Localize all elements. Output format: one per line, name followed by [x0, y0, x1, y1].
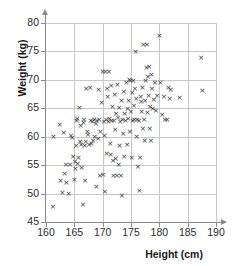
data-point	[157, 79, 164, 86]
data-point	[141, 116, 148, 123]
data-point	[115, 161, 122, 168]
y-tick-label: 55	[17, 158, 39, 170]
y-tick-label: 80	[17, 16, 39, 28]
x-tick-label: 180	[144, 226, 174, 238]
gridline-horizontal	[46, 51, 216, 52]
data-point	[100, 171, 107, 178]
y-axis-arrow-icon	[42, 9, 48, 15]
data-point	[75, 154, 82, 161]
data-point	[137, 154, 144, 161]
gridline-horizontal	[46, 23, 216, 24]
data-point	[167, 86, 174, 93]
data-point	[128, 154, 135, 161]
y-tick-label: 75	[17, 44, 39, 56]
y-tick-label: 45	[17, 215, 39, 227]
gridline-vertical	[188, 23, 189, 222]
data-point	[49, 203, 56, 210]
data-point	[156, 32, 163, 39]
data-point	[50, 133, 57, 140]
data-point	[136, 187, 143, 194]
data-point	[56, 121, 63, 128]
data-point	[124, 141, 131, 148]
y-tick	[41, 23, 46, 24]
scatter-chart: Weight (kg) Height (cm) 1601651701751801…	[0, 0, 234, 266]
y-tick	[41, 137, 46, 138]
y-tick	[41, 194, 46, 195]
data-point	[82, 177, 89, 184]
x-axis-arrow-icon	[221, 219, 227, 225]
data-point	[143, 41, 150, 48]
data-point	[146, 125, 153, 132]
data-point	[116, 142, 123, 149]
data-point	[69, 134, 76, 141]
x-tick-label: 175	[116, 226, 146, 238]
data-point	[198, 54, 205, 61]
data-point	[133, 133, 140, 140]
y-tick-label: 50	[17, 187, 39, 199]
data-point	[63, 179, 70, 186]
data-point	[105, 68, 112, 75]
data-point	[130, 77, 137, 84]
plot-area	[46, 23, 216, 222]
y-tick	[41, 51, 46, 52]
x-axis-title: Height (cm)	[118, 248, 230, 260]
data-point	[78, 164, 85, 171]
data-point	[118, 192, 125, 199]
y-tick-label: 70	[17, 73, 39, 85]
data-point	[164, 116, 171, 123]
data-point	[101, 188, 108, 195]
data-point	[121, 153, 128, 160]
data-point	[107, 140, 114, 147]
data-point	[65, 190, 72, 197]
x-tick-label: 185	[173, 226, 203, 238]
data-point	[93, 183, 100, 190]
y-tick-label: 65	[17, 101, 39, 113]
y-tick	[41, 165, 46, 166]
gridline-vertical	[216, 23, 217, 222]
data-point	[71, 176, 78, 183]
data-point	[166, 95, 173, 102]
data-point	[199, 87, 206, 94]
x-tick-label: 160	[31, 226, 61, 238]
y-tick-label: 60	[17, 130, 39, 142]
data-point	[132, 48, 139, 55]
data-point	[112, 126, 119, 133]
data-point	[101, 132, 108, 139]
data-point	[147, 137, 154, 144]
data-point	[176, 94, 183, 101]
data-point	[117, 172, 124, 179]
data-point	[131, 85, 138, 92]
y-tick	[41, 80, 46, 81]
y-tick	[41, 108, 46, 109]
x-tick-label: 190	[201, 226, 231, 238]
data-point	[148, 71, 155, 78]
data-point	[79, 201, 86, 208]
data-point	[87, 84, 94, 91]
data-point	[95, 86, 102, 93]
data-point	[60, 129, 67, 136]
y-tick	[41, 222, 46, 223]
x-tick-label: 165	[59, 226, 89, 238]
data-point	[61, 170, 68, 177]
gridline-vertical	[159, 23, 160, 222]
x-tick-label: 170	[88, 226, 118, 238]
data-point	[130, 102, 137, 109]
data-point	[134, 163, 141, 170]
data-point	[120, 88, 127, 95]
data-point	[139, 84, 146, 91]
data-point	[76, 104, 83, 111]
